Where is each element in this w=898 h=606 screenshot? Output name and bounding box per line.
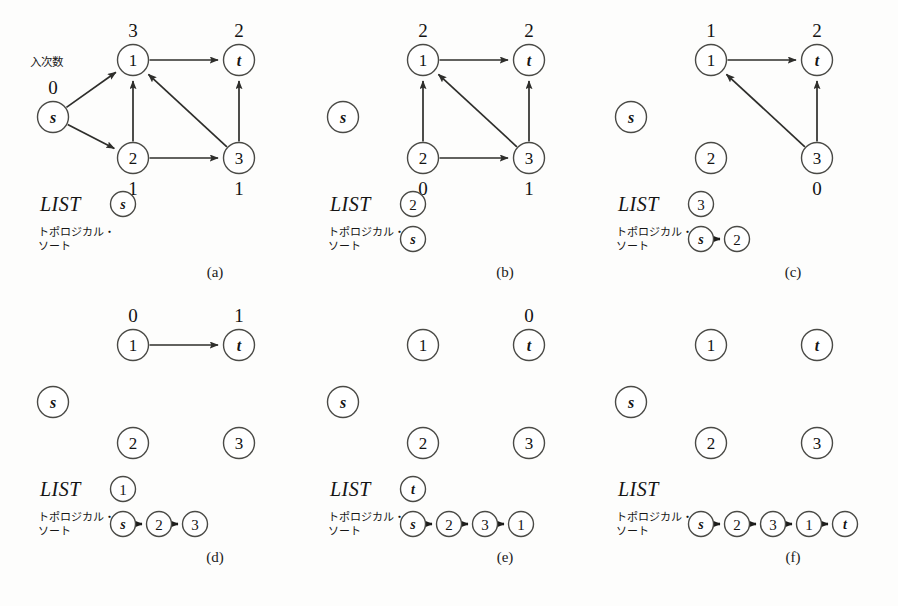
list-item[interactable]: s [111, 192, 136, 217]
node-label-t: t [815, 52, 820, 69]
sorted-sequence: s231t [689, 512, 858, 537]
sequence-node-s[interactable]: s [111, 512, 136, 537]
sequence-node-label: 2 [733, 232, 741, 248]
sequence-node-3[interactable]: 3 [183, 512, 208, 537]
graph-node-s[interactable]: s [328, 387, 359, 418]
list-item-label: 3 [697, 197, 705, 213]
graph-node-s[interactable]: s0 [38, 77, 69, 133]
sequence-node-2[interactable]: 2 [437, 512, 462, 537]
graph-node-1[interactable]: 10 [118, 305, 149, 361]
sequence-node-1[interactable]: 1 [509, 512, 534, 537]
sequence-node-s[interactable]: s [401, 512, 426, 537]
node-label-1: 1 [129, 51, 138, 70]
edge-3-to-1 [148, 74, 226, 147]
graph-node-t[interactable]: t0 [514, 305, 545, 361]
edge-s-to-1 [66, 72, 115, 107]
sorted-sequence: s [401, 227, 426, 252]
graph-node-1[interactable]: 12 [408, 20, 439, 76]
list-item-label: 1 [119, 482, 127, 498]
sequence-node-s[interactable]: s [689, 227, 714, 252]
edges-group [726, 60, 817, 147]
sequence-node-s[interactable]: s [401, 227, 426, 252]
node-label-t: t [237, 337, 242, 354]
graph-node-2[interactable]: 20 [408, 143, 439, 200]
list-item[interactable]: 1 [111, 477, 136, 502]
graph-node-s[interactable]: s [328, 102, 359, 133]
sequence-node-label: 1 [805, 517, 813, 533]
graph-node-3[interactable]: 30 [802, 143, 833, 200]
node-label-1: 1 [129, 336, 138, 355]
node-label-2: 2 [419, 434, 428, 453]
node-label-s: s [49, 394, 56, 411]
graph-node-t[interactable]: t2 [514, 20, 545, 76]
list-item[interactable]: 3 [689, 192, 714, 217]
node-label-2: 2 [129, 434, 138, 453]
sequence-node-label: 3 [191, 517, 199, 533]
indegree-label-1: 3 [128, 20, 138, 41]
list-item-label: s [119, 197, 126, 212]
sequence-node-s[interactable]: s [689, 512, 714, 537]
sequence-node-3[interactable]: 3 [761, 512, 786, 537]
panel-caption-e: (e) [497, 549, 514, 566]
topo-sort-label-line2: ソート [616, 525, 649, 538]
indegree-label-3: 1 [234, 178, 244, 199]
indegree-label-3: 1 [524, 178, 534, 199]
node-label-s: s [339, 109, 346, 126]
indegree-label-t: 2 [812, 20, 822, 41]
graph-node-1[interactable]: 11 [696, 20, 727, 76]
graph-node-3[interactable]: 31 [514, 143, 545, 200]
node-label-2: 2 [707, 434, 716, 453]
sequence-node-t[interactable]: t [833, 512, 858, 537]
graph-node-s[interactable]: s [616, 102, 647, 133]
sequence-node-label: s [697, 517, 704, 532]
indegree-label-1: 1 [706, 20, 716, 41]
node-label-1: 1 [419, 51, 428, 70]
list-word-label: LIST [617, 478, 660, 500]
graph-node-s[interactable]: s [38, 387, 69, 418]
list-item[interactable]: t [401, 477, 426, 502]
sequence-node-3[interactable]: 3 [473, 512, 498, 537]
sequence-node-2[interactable]: 2 [147, 512, 172, 537]
list-word-label: LIST [39, 193, 82, 215]
nodes-group: s11t2230 [616, 20, 833, 199]
indegree-label-t: 2 [234, 20, 244, 41]
topo-sort-label-line1: トポロジカル・ [616, 511, 693, 524]
node-label-t: t [237, 52, 242, 69]
sequence-node-2[interactable]: 2 [725, 512, 750, 537]
graph-node-2[interactable]: 2 [696, 428, 727, 459]
graph-node-s[interactable]: s [616, 387, 647, 418]
graph-node-t[interactable]: t2 [802, 20, 833, 76]
list-word-label: LIST [329, 193, 372, 215]
edge-3-to-1 [726, 74, 804, 147]
sequence-node-2[interactable]: 2 [725, 227, 750, 252]
node-label-3: 3 [235, 149, 244, 168]
graph-node-2[interactable]: 2 [118, 428, 149, 459]
graph-node-3[interactable]: 3 [224, 428, 255, 459]
sequence-node-1[interactable]: 1 [797, 512, 822, 537]
sequence-node-label: 2 [155, 517, 163, 533]
list-item-label: 2 [409, 197, 417, 213]
graph-node-t[interactable]: t [802, 330, 833, 361]
panel-caption-b: (b) [496, 264, 514, 281]
graph-node-2[interactable]: 21 [118, 143, 149, 200]
edges-group [66, 60, 239, 158]
indegree-label-1: 2 [418, 20, 428, 41]
graph-node-2[interactable]: 2 [408, 428, 439, 459]
nodes-group: s12t22031 [328, 20, 545, 199]
graph-node-3[interactable]: 31 [224, 143, 255, 200]
list-item[interactable]: 2 [401, 192, 426, 217]
node-label-2: 2 [707, 149, 716, 168]
graph-node-3[interactable]: 3 [514, 428, 545, 459]
graph-node-1[interactable]: 1 [408, 330, 439, 361]
graph-node-3[interactable]: 3 [802, 428, 833, 459]
graph-node-2[interactable]: 2 [696, 143, 727, 174]
indegree-label-t: 2 [524, 20, 534, 41]
graph-node-t[interactable]: t2 [224, 20, 255, 76]
graph-node-t[interactable]: t1 [224, 305, 255, 361]
node-label-3: 3 [525, 149, 534, 168]
topo-sort-label-line1: トポロジカル・ [616, 226, 693, 239]
graph-node-1[interactable]: 1 [696, 330, 727, 361]
nodes-group: s1t023 [328, 305, 545, 459]
graph-node-1[interactable]: 13 [118, 20, 149, 76]
topo-sort-label-line1: トポロジカル・ [328, 226, 405, 239]
